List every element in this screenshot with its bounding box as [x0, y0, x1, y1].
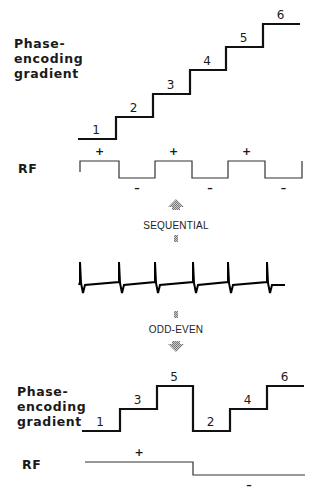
down-arrow-icon: [168, 341, 184, 352]
top-rf-label: RF: [18, 161, 37, 176]
rf-sign: +: [134, 446, 143, 459]
bottom-gradient-staircase: [82, 386, 304, 431]
step-label: 5: [240, 31, 248, 45]
bottom-gradient-label-line1: Phase-: [17, 384, 68, 399]
rf-sign: –: [246, 479, 252, 492]
rf-sign: –: [207, 182, 213, 195]
rf-sign: –: [281, 182, 287, 195]
rf-sign: –: [134, 182, 140, 195]
top-gradient-staircase: [78, 24, 300, 139]
ecg-trace: [79, 262, 285, 293]
step-label: 6: [277, 8, 285, 22]
step-label: 6: [281, 370, 289, 384]
sequential-indicator: SEQUENTIAL: [143, 199, 209, 242]
step-label: 1: [96, 415, 104, 429]
rf-sign: +: [242, 145, 251, 158]
odd-even-connector: [174, 311, 178, 318]
step-label: 1: [92, 123, 100, 137]
top-gradient-label-line3: gradient: [14, 66, 79, 81]
odd-even-label: ODD-EVEN: [149, 324, 203, 335]
step-label: 4: [244, 393, 252, 407]
sequential-connector: [174, 235, 178, 242]
step-label: 2: [207, 415, 215, 429]
step-label: 3: [134, 393, 142, 407]
sequential-label: SEQUENTIAL: [143, 220, 209, 231]
top-rf-signs: + – + – + –: [95, 145, 286, 195]
bottom-rf-label: RF: [22, 457, 41, 472]
bottom-gradient-label-line3: gradient: [17, 414, 82, 429]
top-panel: Phase- encoding gradient 1 2 3 4 5 6 RF …: [14, 8, 302, 195]
top-rf-waveform: [80, 161, 302, 178]
mri-phase-encoding-diagram: Phase- encoding gradient 1 2 3 4 5 6 RF …: [0, 0, 320, 493]
top-gradient-label-line2: encoding: [14, 51, 83, 66]
bottom-panel: Phase- encoding gradient 1 3 5 2 4 6 RF …: [17, 370, 305, 492]
bottom-gradient-label-line2: encoding: [17, 399, 86, 414]
rf-sign: +: [169, 145, 178, 158]
top-gradient-label-line1: Phase-: [14, 36, 65, 51]
bottom-rf-waveform: [85, 462, 305, 475]
step-label: 3: [167, 78, 175, 92]
up-arrow-icon: [168, 199, 184, 210]
step-label: 4: [203, 54, 211, 68]
odd-even-indicator: ODD-EVEN: [149, 311, 203, 352]
step-label: 2: [130, 101, 138, 115]
step-label: 5: [170, 370, 178, 384]
rf-sign: +: [95, 145, 104, 158]
